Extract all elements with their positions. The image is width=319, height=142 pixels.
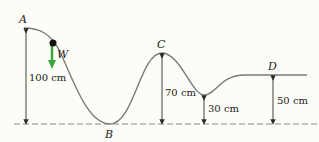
height-valley-label: 30 cm [208, 103, 240, 114]
point-a-label: A [18, 13, 27, 26]
height-c-label: 70 cm [165, 87, 197, 98]
weight-label: W [57, 48, 70, 61]
roller-coaster-diagram: A W 100 cm B C 70 cm 30 cm D 50 cm [0, 0, 319, 142]
ball-icon [50, 40, 57, 47]
point-d-label: D [267, 60, 277, 73]
weight-arrowhead-icon [48, 60, 56, 69]
height-d-label: 50 cm [277, 95, 309, 106]
height-a-label: 100 cm [29, 72, 67, 83]
point-c-label: C [157, 38, 166, 51]
point-b-label: B [104, 128, 113, 141]
track-curve [24, 28, 307, 124]
